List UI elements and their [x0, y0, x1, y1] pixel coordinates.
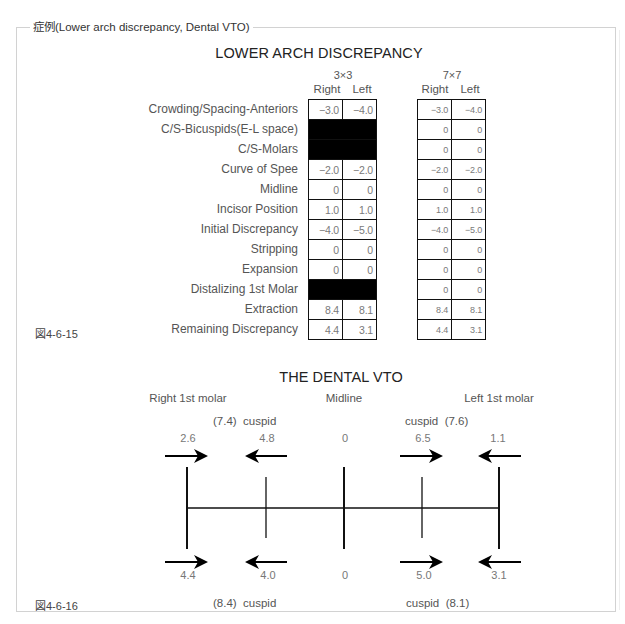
lower-value-right-cuspid: 4.0: [260, 569, 275, 581]
vto-diagram: [0, 0, 625, 624]
figure-label-4-6-16: 図4-6-16: [35, 597, 78, 613]
arrow-left-icon: [478, 449, 521, 463]
arrow-left-icon: [478, 555, 521, 569]
arrow-right-icon: [400, 555, 443, 569]
lower-value-left-cuspid: 5.0: [416, 569, 431, 581]
arrow-right-icon: [165, 555, 208, 569]
lower-value-right-molar: 4.4: [180, 569, 195, 581]
arrow-right-icon: [165, 449, 208, 463]
lower-value-left-molar: 3.1: [491, 569, 506, 581]
lower-right-cuspid-label: (8.4) cuspid: [213, 597, 276, 609]
arrow-left-icon: [245, 449, 287, 463]
arrow-right-icon: [400, 449, 443, 463]
lower-left-cuspid-label: cuspid (8.1): [406, 597, 469, 609]
lower-value-midline: 0: [342, 569, 348, 581]
arrow-left-icon: [245, 555, 287, 569]
